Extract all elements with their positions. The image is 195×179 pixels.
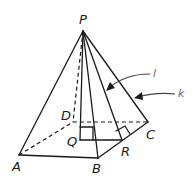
arrowhead-l-icon: [106, 82, 115, 91]
right-angle-marker-Q: [80, 127, 93, 140]
label-B: B: [92, 161, 101, 176]
edge-AB: [19, 155, 98, 158]
label-A: A: [11, 159, 21, 174]
label-D: D: [61, 108, 71, 123]
label-k: k: [178, 87, 185, 100]
label-Q: Q: [67, 134, 77, 149]
pyramid-diagram: P A B C D Q R l k: [0, 0, 195, 179]
arrow-k: [138, 93, 175, 97]
arrowhead-k-icon: [134, 92, 143, 100]
label-l: l: [153, 67, 156, 80]
label-C: C: [146, 127, 156, 142]
label-R: R: [121, 144, 130, 159]
label-P: P: [79, 12, 87, 27]
